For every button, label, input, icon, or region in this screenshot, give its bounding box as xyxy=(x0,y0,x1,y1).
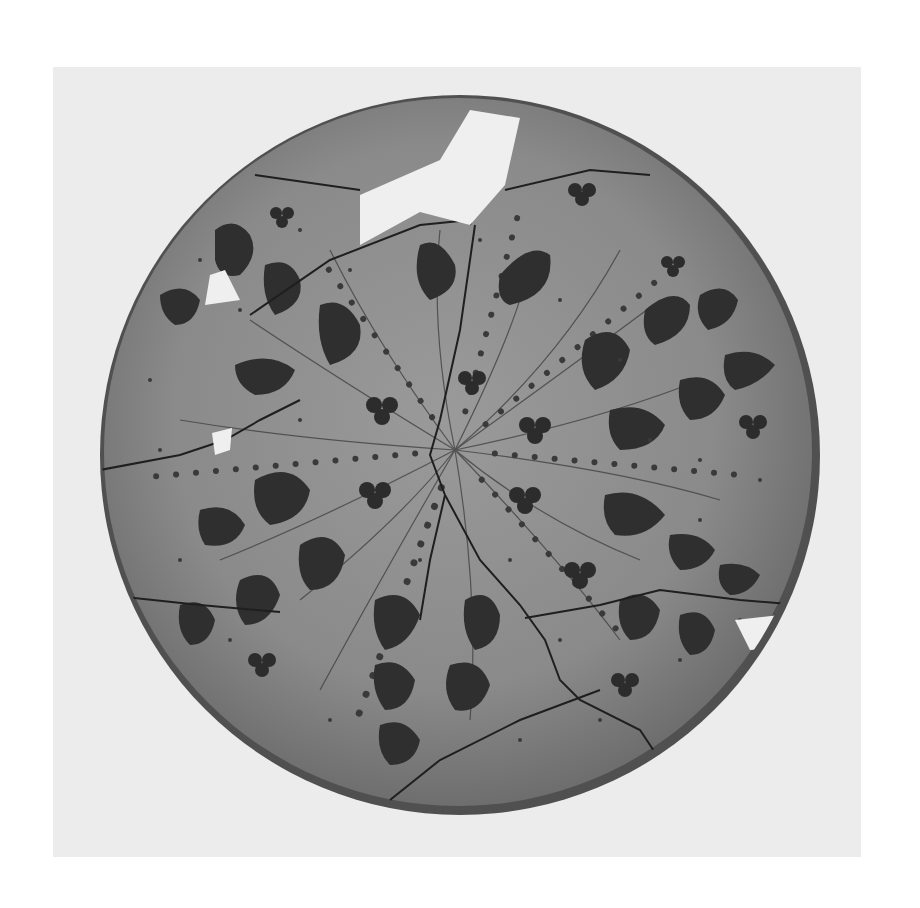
ceramic-plate-photo xyxy=(0,0,920,908)
